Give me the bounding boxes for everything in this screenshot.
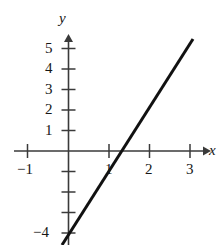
y-axis-label: y: [59, 11, 66, 26]
x-tick-label-neg1: −1: [17, 162, 33, 177]
y-tick-label-5: 5: [45, 41, 53, 56]
y-tick-label-1: 1: [45, 123, 53, 138]
y-tick-label-3: 3: [45, 82, 53, 97]
y-tick-label-neg4: −4: [33, 225, 49, 240]
x-tick-label-3: 3: [186, 162, 194, 177]
y-tick-label-4: 4: [45, 61, 53, 76]
x-tick-label-2: 2: [145, 162, 153, 177]
x-tick-label-1: 1: [105, 162, 113, 177]
y-axis-arrowhead: [64, 34, 73, 42]
coordinate-plane-svg: [0, 0, 223, 245]
graph-figure: y x 5 4 3 2 1 −4 −1 1 2 3: [0, 0, 223, 245]
plotted-line: [62, 39, 193, 245]
x-axis-label: x: [209, 143, 216, 158]
y-tick-label-2: 2: [45, 102, 53, 117]
